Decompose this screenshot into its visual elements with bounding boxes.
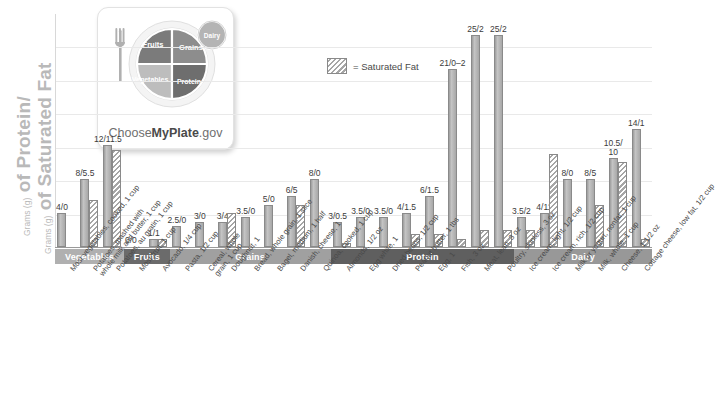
x-tick-label: Fish, 3 oz xyxy=(460,242,487,273)
x-tick-label: Egg, 1 xyxy=(437,251,457,273)
